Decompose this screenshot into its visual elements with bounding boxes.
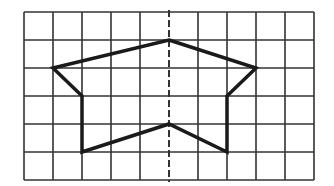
grid-diagram: [0, 0, 334, 186]
